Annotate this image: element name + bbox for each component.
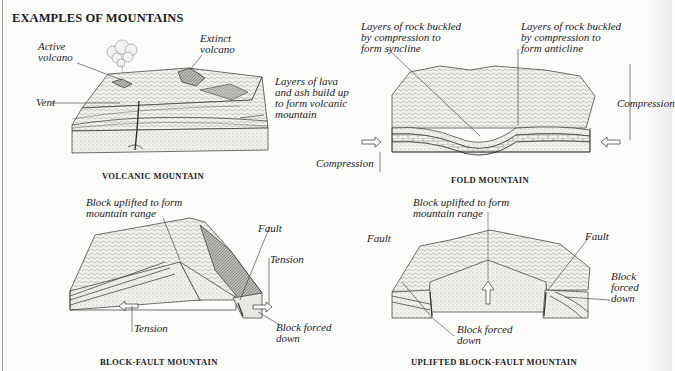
caption-uplifted-block-fault-mountain: UPLIFTED BLOCK-FAULT MOUNTAIN [411,357,577,367]
uplifted-block-fault-mountain-drawing [392,212,590,318]
label-active-volcano: Active volcano [38,41,73,63]
volcanic-mountain-drawing [72,40,268,153]
label-fault: Fault [258,223,282,234]
label-vent: Vent [36,97,55,108]
label-fault-right: Fault [585,231,609,242]
block-fault-mountain-drawing [70,218,272,318]
label-block-forced-down: Block forced down [276,322,331,344]
label-fault-left: Fault [367,233,391,244]
label-tension-right: Tension [270,254,304,265]
compression-arrow-left [362,137,381,147]
compression-arrow-right [601,137,620,147]
caption-volcanic-mountain: VOLCANIC MOUNTAIN [102,171,204,181]
caption-block-fault-mountain: BLOCK-FAULT MOUNTAIN [100,357,218,367]
label-lava-layers: Layers of lava and ash build up to form … [275,76,349,120]
label-compression-left: Compression [316,158,374,169]
fold-mountain-drawing [362,66,620,155]
caption-fold-mountain: FOLD MOUNTAIN [451,175,529,185]
label-block-uplifted: Block uplifted to form mountain range [86,197,182,219]
label-block-uplifted-2: Block uplifted to form mountain range [413,197,509,219]
label-compression-right: Compression [617,98,675,109]
label-block-forced-down-bottom: Block forced down [457,324,512,346]
label-syncline: Layers of rock buckled by compression to… [361,21,461,54]
label-block-forced-down-right: Block forced down [611,271,639,304]
label-anticline: Layers of rock buckled by compression to… [521,21,621,54]
label-tension-left: Tension [134,323,168,334]
label-extinct-volcano: Extinct volcano [200,33,235,55]
